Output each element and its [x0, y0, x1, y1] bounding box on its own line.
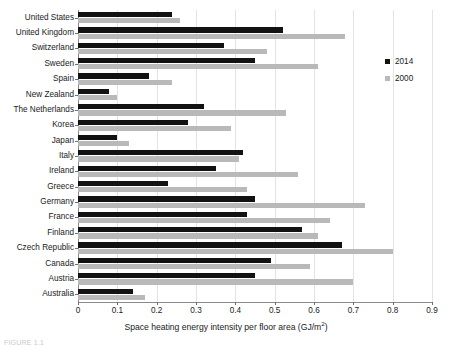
bar-2000[interactable]: [78, 34, 345, 39]
bar-row: [78, 256, 432, 271]
x-tick-label: 0.3: [190, 306, 201, 315]
x-axis-title-main: Space heating energy intensity per floor…: [124, 322, 321, 332]
bar-2014[interactable]: [78, 181, 168, 186]
bar-2000[interactable]: [78, 64, 318, 69]
legend-label: 2014: [395, 57, 413, 66]
bar-row: [78, 87, 432, 102]
bar-row: [78, 164, 432, 179]
bar-2000[interactable]: [78, 172, 298, 177]
category-label: Austria: [49, 274, 74, 283]
bar-row: [78, 287, 432, 302]
bar-2014[interactable]: [78, 27, 283, 32]
bar-2000[interactable]: [78, 126, 231, 131]
bar-rows: [78, 10, 432, 302]
bar-2014[interactable]: [78, 273, 255, 278]
bar-row: [78, 102, 432, 117]
bar-2014[interactable]: [78, 58, 255, 63]
category-label: Germany: [40, 197, 74, 206]
category-label: Korea: [52, 120, 74, 129]
bar-2014[interactable]: [78, 73, 149, 78]
figure-caption: FIGURE 1.1: [4, 339, 44, 345]
bar-2000[interactable]: [78, 218, 330, 223]
x-tick-line: [117, 302, 118, 305]
bar-2000[interactable]: [78, 187, 247, 192]
x-tick-line: [235, 302, 236, 305]
x-tick-line: [432, 302, 433, 305]
bar-2000[interactable]: [78, 203, 365, 208]
bar-2000[interactable]: [78, 110, 286, 115]
category-label: Canada: [45, 259, 74, 268]
bar-2000[interactable]: [78, 80, 172, 85]
x-axis-title: Space heating energy intensity per floor…: [0, 320, 452, 332]
category-label: United States: [25, 13, 74, 22]
category-label: France: [49, 212, 74, 221]
x-tick-label: 0.7: [348, 306, 359, 315]
category-label: Czech Republic: [17, 243, 74, 252]
bar-row: [78, 148, 432, 163]
x-tick-label: 0.5: [269, 306, 280, 315]
chart-legend: 20142000: [385, 55, 413, 89]
bar-2014[interactable]: [78, 242, 342, 247]
bar-2014[interactable]: [78, 166, 216, 171]
bar-2014[interactable]: [78, 196, 255, 201]
x-tick-line: [157, 302, 158, 305]
x-tick-label: 0.9: [426, 306, 437, 315]
x-tick-line: [393, 302, 394, 305]
bar-2014[interactable]: [78, 43, 224, 48]
bar-2014[interactable]: [78, 227, 302, 232]
plot-area: [78, 10, 432, 302]
bar-2000[interactable]: [78, 295, 145, 300]
legend-swatch-icon: [385, 59, 390, 64]
bar-row: [78, 71, 432, 86]
category-label: The Netherlands: [13, 105, 74, 114]
category-axis-labels: United StatesUnited KingdomSwitzerlandSw…: [0, 10, 74, 302]
bar-row: [78, 271, 432, 286]
bar-2000[interactable]: [78, 18, 180, 23]
category-label: Sweden: [44, 59, 74, 68]
legend-swatch-icon: [385, 76, 390, 81]
bar-2000[interactable]: [78, 141, 129, 146]
bar-2000[interactable]: [78, 264, 310, 269]
bar-2014[interactable]: [78, 258, 271, 263]
bar-2000[interactable]: [78, 279, 353, 284]
bar-2014[interactable]: [78, 120, 188, 125]
bar-row: [78, 179, 432, 194]
bar-2000[interactable]: [78, 156, 239, 161]
bar-2000[interactable]: [78, 49, 267, 54]
x-tick-label: 0.4: [230, 306, 241, 315]
bar-row: [78, 10, 432, 25]
bar-row: [78, 56, 432, 71]
bar-2000[interactable]: [78, 233, 318, 238]
x-tick-line: [314, 302, 315, 305]
bar-2014[interactable]: [78, 289, 133, 294]
bar-2014[interactable]: [78, 104, 204, 109]
x-tick-line: [275, 302, 276, 305]
bar-row: [78, 133, 432, 148]
category-label: Australia: [42, 289, 74, 298]
legend-item-2000[interactable]: 2000: [385, 72, 413, 85]
bar-row: [78, 118, 432, 133]
bar-2000[interactable]: [78, 249, 393, 254]
bar-row: [78, 41, 432, 56]
legend-item-2014[interactable]: 2014: [385, 55, 413, 68]
x-axis-ticks: 00.10.20.30.40.50.60.70.80.9: [78, 302, 432, 320]
bar-2014[interactable]: [78, 135, 117, 140]
category-label: Switzerland: [32, 43, 74, 52]
gridline-0-9: [432, 10, 433, 302]
legend-label: 2000: [395, 74, 413, 83]
bar-2000[interactable]: [78, 95, 117, 100]
bar-2014[interactable]: [78, 12, 172, 17]
bar-2014[interactable]: [78, 89, 109, 94]
bar-row: [78, 25, 432, 40]
bar-row: [78, 194, 432, 209]
category-label: Spain: [53, 74, 74, 83]
x-tick-line: [78, 302, 79, 305]
category-label: Japan: [52, 136, 74, 145]
bar-2014[interactable]: [78, 150, 243, 155]
bar-row: [78, 241, 432, 256]
bar-2014[interactable]: [78, 212, 247, 217]
x-tick-label: 0: [76, 306, 81, 315]
category-label: Greece: [47, 182, 74, 191]
x-tick-label: 0.1: [112, 306, 123, 315]
x-tick-label: 0.8: [387, 306, 398, 315]
